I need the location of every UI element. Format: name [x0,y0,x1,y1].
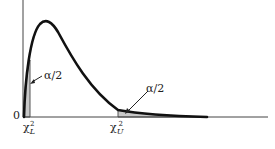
chi-square-diagram [0,0,275,149]
alpha-left-label: α/2 [44,70,62,81]
subscript-u: U [117,127,124,136]
superscript-2: 2 [118,120,122,128]
alpha-right-arrow [127,91,148,112]
alpha-left-arrowhead [30,79,35,84]
subscript-l: L [30,127,35,136]
superscript-2: 2 [30,120,34,128]
alpha-right-label: α/2 [146,83,164,94]
chi-symbol: χ [23,121,30,134]
chi-lower-label: χL2 [23,121,34,136]
origin-label: 0 [13,110,20,121]
chi-symbol: χ [110,121,117,134]
chi-upper-label: χU2 [110,121,123,136]
